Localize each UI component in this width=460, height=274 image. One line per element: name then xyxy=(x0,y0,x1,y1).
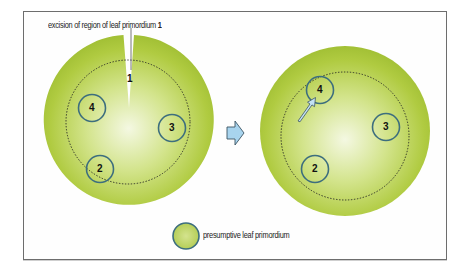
transition-arrow-icon xyxy=(227,121,244,145)
primordium-label-4-right: 4 xyxy=(317,84,323,95)
primordium-label-3-left: 3 xyxy=(169,122,175,133)
excision-label: 1 xyxy=(127,73,133,84)
primordium-label-4-left: 4 xyxy=(89,102,95,113)
annotation-number: 1 xyxy=(158,20,162,30)
legend-swatch xyxy=(173,223,199,249)
primordium-label-3-right: 3 xyxy=(383,121,389,132)
primordium-label-2-right: 2 xyxy=(312,163,318,174)
excision-annotation: excision of region of leaf primordium 1 xyxy=(48,20,162,30)
legend-label: presumptive leaf primordium xyxy=(203,230,289,240)
annotation-text: excision of region of leaf primordium xyxy=(48,20,156,30)
right-meristem xyxy=(260,46,430,216)
primordium-label-2-left: 2 xyxy=(97,163,103,174)
left-meristem xyxy=(44,28,214,205)
